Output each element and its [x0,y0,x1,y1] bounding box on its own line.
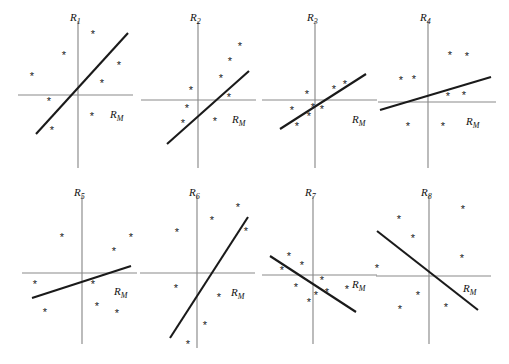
y-axis-label-subscript: 6 [196,192,200,201]
data-point: * [236,201,241,213]
data-point: * [375,262,380,274]
data-point: * [444,301,449,313]
data-point: * [91,28,96,40]
x-axis-label: RM [230,286,246,301]
panel-3: ********R3RM [262,11,377,168]
data-point: * [112,245,117,257]
data-point: * [446,90,451,102]
data-point: * [295,120,300,132]
x-axis-label-subscript: M [120,291,129,300]
x-axis-label: RM [351,278,367,293]
x-axis-label-subscript: M [358,284,367,293]
data-point: * [294,281,299,293]
data-point: * [210,214,215,226]
y-axis-label: R2 [189,11,201,26]
x-axis-label-subscript: M [469,288,478,297]
data-point: * [185,102,190,114]
data-point: * [311,101,316,113]
x-axis-label: RM [351,113,367,128]
x-axis-label: RM [231,113,247,128]
data-point: * [290,104,295,116]
data-point: * [345,283,350,295]
data-point: * [115,307,120,319]
panel-1: ********R1RM [18,11,133,168]
x-axis-label: RM [462,282,478,297]
data-point: * [441,120,446,132]
x-axis-label-subscript: M [472,121,481,130]
x-axis-label: RM [109,108,125,123]
data-point: * [203,319,208,331]
data-point: * [416,289,421,301]
data-point: * [460,252,465,264]
data-point: * [213,115,218,127]
x-axis-label-subscript: M [116,114,125,123]
data-point: * [100,77,105,89]
data-point: * [129,231,134,243]
panel-7: *********R7RM [262,186,377,344]
data-point: * [47,95,52,107]
data-point: * [181,117,186,129]
scatter-plot-figure: ********R1RM********R2RM********R3RM****… [0,0,509,364]
data-point: * [238,40,243,52]
data-point: * [244,225,249,237]
regression-line [167,71,249,144]
regression-line [170,217,248,338]
y-axis-label: R1 [69,11,81,26]
x-axis-label: RM [465,115,481,130]
x-axis-label-subscript: M [238,119,247,128]
data-point: * [411,232,416,244]
y-axis-label: R7 [304,186,317,201]
data-point: * [320,103,325,115]
data-point: * [91,278,96,290]
data-point: * [406,120,411,132]
data-point: * [397,213,402,225]
data-point: * [448,49,453,61]
data-point: * [186,338,191,350]
data-point: * [332,83,337,95]
data-point: * [175,226,180,238]
data-point: * [325,286,330,298]
data-point: * [217,291,222,303]
data-point: * [307,110,312,122]
data-point: * [461,203,466,215]
data-point: * [287,250,292,262]
regression-line [380,77,491,110]
data-point: * [305,88,310,100]
y-axis-label-subscript: 7 [312,192,317,201]
y-axis-label: R5 [73,186,85,201]
data-point: * [307,296,312,308]
x-axis-label-subscript: M [237,292,246,301]
data-point: * [280,264,285,276]
data-point: * [300,259,305,271]
x-axis-label-subscript: M [358,119,367,128]
panel-8: ********R8RM [375,186,491,344]
data-point: * [30,70,35,82]
y-axis-label-subscript: 8 [428,192,432,201]
panel-4: ********R4RM [378,11,496,168]
data-point: * [320,274,325,286]
data-point: * [33,278,38,290]
panel-2: ********R2RM [141,11,256,168]
data-point: * [62,49,67,61]
y-axis-label-subscript: 4 [427,17,431,26]
figure-canvas: ********R1RM********R2RM********R3RM****… [0,0,509,364]
data-point: * [398,303,403,315]
y-axis-label: R8 [420,186,432,201]
data-point: * [95,300,100,312]
data-point: * [219,72,224,84]
y-axis-label: R4 [419,11,431,26]
y-axis-label-subscript: 1 [77,17,81,26]
data-point: * [50,124,55,136]
y-axis-label: R6 [188,186,200,201]
data-point: * [462,89,467,101]
data-point: * [60,231,65,243]
y-axis-label-subscript: 3 [313,17,318,26]
data-point: * [117,59,122,71]
data-point: * [43,306,48,318]
y-axis-label-subscript: 5 [81,192,85,201]
x-axis-label: RM [113,285,129,300]
panel-6: ********R6RM [140,186,255,350]
data-point: * [189,84,194,96]
panel-5: ********R5RM [22,186,137,344]
data-point: * [314,289,319,301]
